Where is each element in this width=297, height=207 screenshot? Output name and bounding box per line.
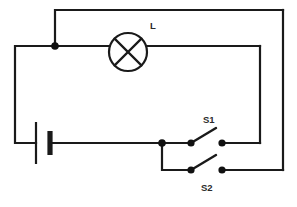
wire-top-rail [55, 10, 283, 46]
junction-top-left-node [51, 42, 59, 50]
switch-s1-label: S1 [203, 114, 215, 125]
junction-switch-branch-node [158, 139, 166, 147]
circuit-schematic: L S1 S2 [0, 0, 297, 207]
switch-s2-right-terminal[interactable] [218, 166, 225, 173]
switch-s1-blade-icon[interactable] [191, 128, 216, 143]
switch-s1-right-terminal[interactable] [218, 139, 225, 146]
switch-s1-left-terminal[interactable] [187, 139, 194, 146]
lamp-label: L [150, 20, 156, 31]
switch-s2-blade-icon[interactable] [191, 155, 216, 170]
wire-branch-to-s2 [162, 143, 191, 170]
switch-s2-label: S2 [201, 182, 213, 193]
switch-s2-left-terminal[interactable] [187, 166, 194, 173]
circuit-diagram-canvas: L S1 S2 [0, 0, 297, 207]
